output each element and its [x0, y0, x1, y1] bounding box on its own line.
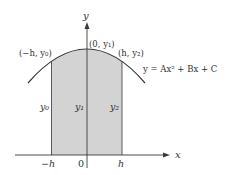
- height-y1-label: y₁: [74, 101, 84, 112]
- height-y0-label: y₀: [39, 101, 49, 112]
- tick-neg-h: −h: [41, 158, 55, 169]
- x-axis-label: x: [175, 149, 181, 160]
- x-axis-arrow-icon: [163, 153, 170, 158]
- point-center-label: (0, y₁): [89, 39, 115, 49]
- height-y2-label: y₂: [109, 101, 119, 112]
- equation-label: y = Ax² + Bx + C: [142, 64, 217, 74]
- tick-zero: 0: [78, 158, 84, 169]
- point-left-label: (−h, y₀): [19, 48, 52, 58]
- parabola-diagram: y x −h 0 h (−h, y₀) (0, y₁) (h, y₂) y = …: [0, 0, 236, 175]
- y-axis-label: y: [82, 10, 89, 21]
- point-right-label: (h, y₂): [118, 48, 144, 58]
- tick-pos-h: h: [118, 158, 124, 169]
- y-axis-arrow-icon: [85, 22, 90, 29]
